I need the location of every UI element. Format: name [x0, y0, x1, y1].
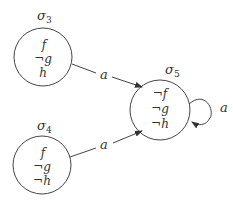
- prop: ¬g: [34, 52, 52, 66]
- edge-line: [70, 148, 96, 157]
- prop: ¬g: [151, 102, 169, 116]
- state-name: σ5: [165, 62, 180, 79]
- prop: ¬h: [33, 174, 51, 188]
- prop: ¬g: [33, 160, 51, 174]
- edge-arrow: [113, 131, 142, 143]
- state-name: σ3: [37, 8, 52, 25]
- edge-arrow: [112, 77, 142, 87]
- prop: f: [40, 146, 48, 160]
- state-sigma4: σ4 f ¬g ¬h: [13, 118, 71, 194]
- self-loop-arrow: [189, 99, 211, 124]
- prop: ¬f: [153, 87, 170, 101]
- prop: h: [39, 66, 47, 80]
- transition-s5-self-loop: a: [189, 99, 228, 124]
- transition-s4-s5: a: [70, 131, 142, 157]
- transition-s3-s5: a: [72, 64, 142, 87]
- edge-label: a: [100, 67, 108, 82]
- state-sigma3: σ3 f ¬g h: [14, 8, 72, 86]
- state-sigma5: σ5 ¬f ¬g ¬h: [130, 62, 190, 140]
- state-diagram: σ3 f ¬g h σ4 f ¬g ¬h σ5 ¬f ¬g ¬h a a a: [0, 0, 233, 205]
- edge-line: [72, 64, 96, 73]
- prop: ¬h: [151, 117, 169, 131]
- edge-label: a: [100, 137, 108, 152]
- edge-label: a: [220, 100, 228, 115]
- prop: f: [41, 38, 49, 52]
- state-name: σ4: [37, 118, 52, 135]
